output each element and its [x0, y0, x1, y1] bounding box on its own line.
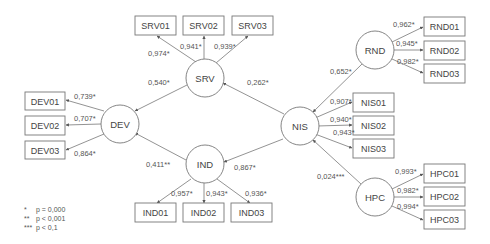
svg-text:IND01: IND01 — [143, 208, 169, 218]
svg-text:NIS03: NIS03 — [361, 144, 386, 154]
svg-text:***: *** — [24, 224, 32, 231]
indicator-hpc02: HPC02 — [424, 187, 465, 206]
significance-legend: * p = 0,000 ** p < 0,001 *** p < 0,1 — [24, 206, 65, 232]
loading-rnd03: 0,982* — [397, 57, 419, 66]
svg-text:IND02: IND02 — [191, 208, 217, 218]
construct-srv: SRV — [186, 59, 224, 97]
svg-text:HPC03: HPC03 — [430, 215, 459, 225]
svg-text:DEV02: DEV02 — [31, 121, 60, 131]
loading-rnd01: 0,962* — [393, 20, 415, 29]
svg-text:RND03: RND03 — [430, 69, 460, 79]
coef-nis-ind: 0,867* — [234, 163, 256, 172]
loading-dev03: 0,864* — [74, 149, 96, 158]
loading-dev01: 0,739* — [74, 92, 96, 101]
loading-dev02: 0,707* — [74, 114, 96, 123]
coef-rnd-nis: 0,652* — [330, 67, 352, 76]
construct-label: NIS — [292, 121, 308, 132]
svg-text:SRV02: SRV02 — [189, 21, 217, 31]
indicator-rnd03: RND03 — [424, 64, 465, 83]
coef-hpc-nis: 0,024*** — [317, 172, 345, 181]
construct-ind: IND — [186, 145, 224, 183]
loading-srv02: 0,941* — [180, 42, 202, 51]
path-ind-dev — [135, 133, 186, 160]
indicator-srv02: SRV02 — [183, 16, 224, 35]
svg-text:HPC01: HPC01 — [430, 169, 459, 179]
loading-nis01: 0,907* — [330, 97, 352, 106]
svg-text:DEV03: DEV03 — [31, 146, 60, 156]
svg-text:HPC02: HPC02 — [430, 192, 459, 202]
svg-text:*: * — [24, 206, 27, 213]
svg-text:SRV03: SRV03 — [238, 21, 266, 31]
construct-label: RND — [365, 45, 386, 56]
indicator-hpc01: HPC01 — [424, 164, 465, 183]
loading-ind03: 0,936* — [245, 189, 267, 198]
construct-dev: DEV — [101, 105, 139, 143]
svg-text:SRV01: SRV01 — [141, 21, 169, 31]
indicator-nis01: NIS01 — [353, 93, 394, 112]
loading-hpc03: 0,994* — [397, 202, 419, 211]
indicator-nis02: NIS02 — [353, 116, 394, 135]
construct-hpc: HPC — [356, 178, 394, 216]
construct-rnd: RND — [356, 31, 394, 69]
loading-ind02: 0,943* — [206, 189, 228, 198]
indicator-ind01: IND01 — [135, 203, 176, 222]
svg-text:RND02: RND02 — [430, 46, 460, 56]
loading-ind01: 0,957* — [171, 189, 193, 198]
svg-text:DEV01: DEV01 — [31, 97, 60, 107]
path-nis-srv — [223, 83, 284, 114]
loading-arrow — [66, 124, 101, 125]
path-srv-dev — [135, 85, 187, 111]
loading-arrow — [66, 134, 104, 150]
path-nis-ind — [224, 139, 283, 162]
construct-label: DEV — [110, 119, 130, 130]
loading-srv03: 0,939* — [214, 42, 236, 51]
construct-label: IND — [197, 159, 214, 170]
loading-arrow — [317, 125, 352, 126]
loading-hpc01: 0,993* — [395, 167, 417, 176]
coef-srv-dev: 0,540* — [148, 78, 170, 87]
svg-text:p = 0,000: p = 0,000 — [36, 206, 65, 214]
indicator-dev02: DEV02 — [25, 116, 65, 135]
indicator-srv01: SRV01 — [135, 16, 176, 35]
indicator-srv03: SRV03 — [232, 16, 273, 35]
indicator-ind03: IND03 — [231, 203, 272, 222]
svg-text:p < 0,1: p < 0,1 — [36, 224, 58, 232]
construct-nis: NIS — [281, 107, 319, 145]
indicator-rnd01: RND01 — [424, 17, 465, 36]
path-model-diagram: SRV DEV IND NIS RND HPC SRV01 SRV02 SRV0… — [0, 0, 490, 244]
coef-nis-srv: 0,262* — [247, 78, 269, 87]
svg-text:RND01: RND01 — [430, 22, 460, 32]
svg-text:IND03: IND03 — [239, 208, 265, 218]
loading-nis02: 0,940* — [330, 115, 352, 124]
construct-label: SRV — [195, 73, 215, 84]
loading-hpc02: 0,982* — [397, 186, 419, 195]
loading-srv01: 0,974* — [148, 49, 170, 58]
indicator-dev01: DEV01 — [25, 92, 65, 110]
loading-arrow — [66, 100, 104, 111]
indicator-dev03: DEV03 — [25, 141, 65, 159]
loading-nis03: 0,943* — [333, 128, 355, 137]
construct-label: HPC — [365, 192, 385, 203]
svg-text:NIS02: NIS02 — [361, 121, 386, 131]
svg-text:**: ** — [24, 215, 30, 222]
svg-text:NIS01: NIS01 — [361, 98, 386, 108]
indicator-ind02: IND02 — [183, 203, 224, 222]
coef-ind-dev: 0,411** — [146, 160, 170, 169]
indicator-nis03: NIS03 — [353, 139, 394, 158]
loading-rnd02: 0,945* — [396, 39, 418, 48]
indicator-rnd02: RND02 — [424, 41, 465, 60]
svg-text:p < 0,001: p < 0,001 — [36, 215, 65, 223]
indicator-hpc03: HPC03 — [424, 210, 465, 229]
